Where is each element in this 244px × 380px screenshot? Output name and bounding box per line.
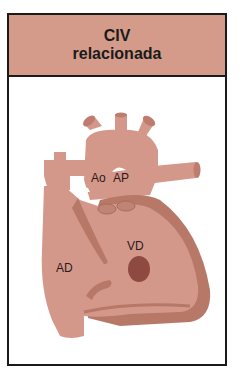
label-ad: AD — [56, 261, 73, 275]
label-ao: Ao — [91, 171, 106, 185]
aorta — [84, 130, 158, 200]
heart-diagram: Ao AP VD AD — [0, 0, 244, 380]
vsd-defect — [128, 256, 150, 282]
label-ap: AP — [113, 171, 129, 185]
label-vd: VD — [127, 239, 144, 253]
vena-cava — [44, 152, 86, 190]
